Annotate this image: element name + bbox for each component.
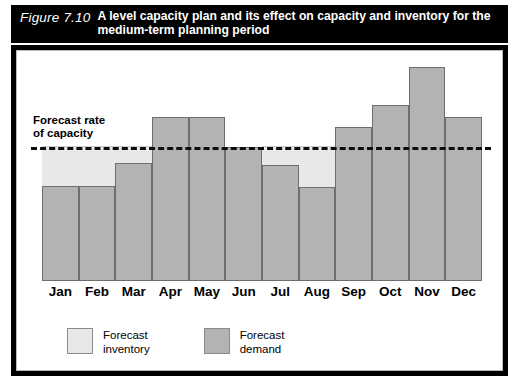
month-label-aug: Aug bbox=[299, 284, 336, 299]
month-label-apr: Apr bbox=[152, 284, 189, 299]
capacity-reference-label: Forecast rate of capacity bbox=[33, 114, 105, 140]
legend-item-demand: Forecast demand bbox=[204, 328, 285, 356]
legend-swatch-demand bbox=[204, 328, 230, 354]
chart-legend: Forecast inventoryForecast demand bbox=[67, 328, 284, 356]
bar-aug bbox=[299, 187, 336, 281]
month-label-may: May bbox=[189, 284, 226, 299]
month-label-dec: Dec bbox=[445, 284, 482, 299]
bars-layer bbox=[42, 51, 482, 281]
figure-title-bar: Figure 7.10 A level capacity plan and it… bbox=[11, 5, 508, 43]
bar-dec bbox=[445, 117, 482, 281]
month-label-jun: Jun bbox=[225, 284, 262, 299]
bar-jun bbox=[225, 147, 262, 281]
bar-feb bbox=[79, 186, 116, 281]
x-axis-month-labels: JanFebMarAprMayJunJulAugSepOctNovDec bbox=[42, 284, 482, 306]
bar-apr bbox=[152, 117, 189, 281]
legend-label-inventory: Forecast inventory bbox=[103, 328, 150, 356]
month-label-mar: Mar bbox=[115, 284, 152, 299]
bar-sep bbox=[335, 127, 372, 281]
bar-nov bbox=[409, 67, 446, 281]
legend-item-inventory: Forecast inventory bbox=[67, 328, 150, 356]
legend-label-demand: Forecast demand bbox=[240, 328, 285, 356]
figure-caption: A level capacity plan and its effect on … bbox=[98, 10, 498, 37]
month-label-feb: Feb bbox=[79, 284, 116, 299]
bar-oct bbox=[372, 105, 409, 282]
month-label-nov: Nov bbox=[409, 284, 446, 299]
legend-swatch-inventory bbox=[67, 328, 93, 354]
month-label-oct: Oct bbox=[372, 284, 409, 299]
chart-panel: Forecast rate of capacity JanFebMarAprMa… bbox=[16, 50, 503, 371]
capacity-reference-line bbox=[31, 147, 491, 150]
month-label-sep: Sep bbox=[335, 284, 372, 299]
bar-may bbox=[189, 117, 226, 281]
bar-mar bbox=[115, 163, 152, 281]
month-label-jan: Jan bbox=[42, 284, 79, 299]
month-label-jul: Jul bbox=[262, 284, 299, 299]
bar-jan bbox=[42, 186, 79, 281]
figure-number: Figure 7.10 bbox=[20, 10, 91, 25]
bar-jul bbox=[262, 165, 299, 281]
chart-panel-frame: Forecast rate of capacity JanFebMarAprMa… bbox=[11, 45, 508, 376]
figure-container: Figure 7.10 A level capacity plan and it… bbox=[11, 5, 508, 376]
plot-area: Forecast rate of capacity JanFebMarAprMa… bbox=[17, 51, 502, 370]
